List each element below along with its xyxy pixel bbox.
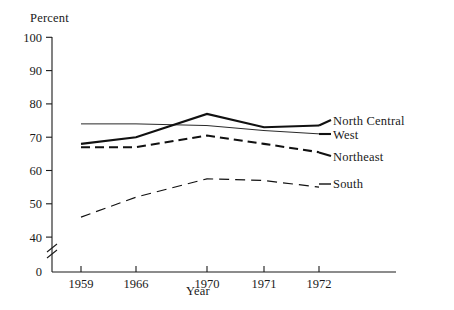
leader-line-north-central (319, 120, 331, 126)
series-line-west (81, 124, 319, 134)
x-tick-marks (81, 266, 319, 272)
y-tick-marks (46, 37, 52, 237)
series-line-north-central (81, 114, 319, 144)
chart-figure: Percent Year 100 90 80 70 60 50 40 0 195… (0, 0, 454, 310)
axes-group (46, 37, 396, 272)
data-series-group (81, 114, 319, 217)
series-line-northeast (81, 136, 319, 153)
plot-canvas (0, 0, 454, 310)
series-line-south (81, 179, 319, 217)
leader-line-northeast (319, 153, 331, 157)
legend-leader-lines (319, 120, 331, 184)
